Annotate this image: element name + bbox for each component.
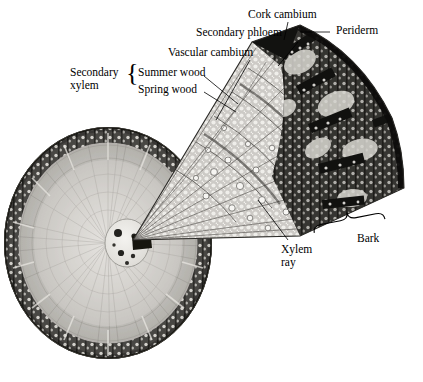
figure-root: Cork cambium Periderm Secondary phloem V… [0,0,423,382]
label-xylem-ray-line2: ray [281,256,296,269]
label-secondary-xylem-line2: xylem [70,79,99,92]
secondary-xylem-brace: { [126,60,138,86]
stem-cross-section [4,120,212,360]
label-xylem-ray-line1: Xylem [281,243,312,256]
label-periderm: Periderm [336,24,378,37]
label-secondary-phloem: Secondary phloem [196,26,282,39]
label-spring-wood: Spring wood [138,83,197,96]
label-cork-cambium: Cork cambium [248,8,317,21]
label-vascular-cambium: Vascular cambium [168,46,253,59]
label-secondary-xylem-line1: Secondary [70,66,119,79]
label-summer-wood: Summer wood [138,66,205,79]
label-bark: Bark [357,232,379,245]
